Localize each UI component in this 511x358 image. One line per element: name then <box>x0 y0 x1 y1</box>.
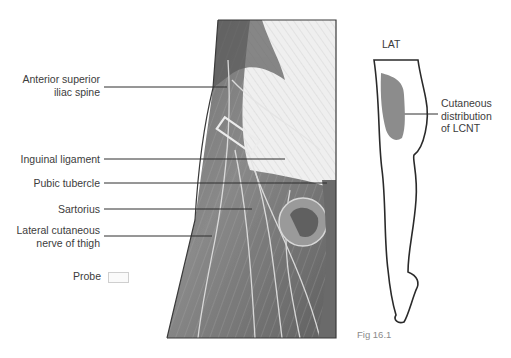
legend-probe-label: Probe <box>0 270 101 283</box>
leg-outline-diagram <box>374 60 427 323</box>
figure-caption: Fig 16.1 <box>357 329 391 340</box>
label-sartorius: Sartorius <box>0 203 100 216</box>
label-lat: LAT <box>382 38 400 51</box>
legend-probe-swatch <box>108 272 129 283</box>
label-lcnt: Lateral cutaneous nerve of thigh <box>0 224 100 249</box>
lcnt-distribution-area <box>381 73 405 140</box>
anatomy-illustration <box>160 15 340 345</box>
label-cutaneous-distribution: Cutaneous distribution of LCNT <box>441 97 492 135</box>
label-asis: Anterior superior iliac spine <box>0 73 100 98</box>
label-inguinal-ligament: Inguinal ligament <box>0 153 100 166</box>
label-pubic-tubercle: Pubic tubercle <box>0 177 100 190</box>
